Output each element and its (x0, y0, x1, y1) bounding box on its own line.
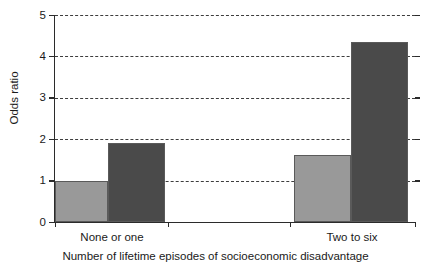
y-tick-label-5: 5 (6, 10, 46, 22)
y-tick-mark-right-1 (415, 180, 420, 181)
plot-area (55, 15, 415, 222)
y-tick-mark-right-3 (415, 97, 420, 98)
y-tick-label-2: 2 (6, 134, 46, 146)
y-tick-label-0: 0 (6, 217, 46, 229)
bar-none-or-one-dark (108, 143, 165, 222)
y-tick-mark-right-4 (415, 56, 420, 57)
x-tick-mark-3 (415, 222, 416, 227)
y-tick-label-3: 3 (6, 92, 46, 104)
bar-none-or-one-light (55, 181, 108, 222)
odds-ratio-bar-chart: Odds ratio 5 4 3 2 1 0 Non (0, 0, 431, 269)
bar-two-to-six-light (294, 155, 351, 222)
y-axis-tick-labels: 5 4 3 2 1 0 (0, 0, 46, 269)
x-tick-mark-0 (55, 222, 56, 227)
x-group-label-two-to-six: Two to six (292, 231, 412, 243)
x-axis-title: Number of lifetime episodes of socioecon… (0, 250, 431, 262)
x-group-label-none-or-one: None or one (52, 231, 172, 243)
y-tick-label-1: 1 (6, 175, 46, 187)
bar-two-to-six-dark (351, 42, 408, 222)
y-tick-mark-right-2 (415, 139, 420, 140)
gridline-5 (55, 15, 415, 16)
x-tick-mark-1 (168, 222, 169, 227)
y-tick-mark-right-5 (415, 15, 420, 16)
y-tick-label-4: 4 (6, 51, 46, 63)
x-tick-mark-2 (290, 222, 291, 227)
